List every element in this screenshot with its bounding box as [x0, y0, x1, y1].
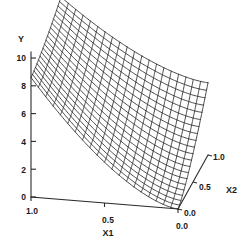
- x1-tick-label-0: 0.0: [176, 221, 188, 231]
- y-tick-label-10: 10: [17, 53, 27, 63]
- x2-tick-label-0: 0.0: [184, 208, 196, 218]
- y-tick-label-0: 0: [21, 192, 26, 202]
- y-tick-label-4: 4: [21, 137, 26, 147]
- plot-canvas: Y 10 8 6 4 2 0 1.0 0.5 0.0 X1 0.0 0.5 1.…: [0, 0, 252, 248]
- x2-axis-title: X2: [226, 185, 237, 195]
- x2-tick-mark: [178, 209, 182, 210]
- x2-tick-label-05: 0.5: [199, 182, 211, 192]
- surface-plot-figure: Y 10 8 6 4 2 0 1.0 0.5 0.0 X1 0.0 0.5 1.…: [0, 0, 252, 248]
- y-tick-label-2: 2: [21, 165, 26, 175]
- y-axis-title: Y: [18, 34, 24, 44]
- x2-tick-label-1: 1.0: [213, 152, 225, 162]
- y-tick-label-8: 8: [21, 81, 26, 91]
- y-tick-label-6: 6: [21, 109, 26, 119]
- x1-axis-title: X1: [102, 228, 113, 238]
- x2-tick-mark: [208, 155, 212, 156]
- surface-mesh: [31, 0, 208, 209]
- x1-tick-label-1: 1.0: [26, 206, 38, 216]
- x1-tick-label-05: 0.5: [102, 215, 114, 225]
- x2-tick-mark: [193, 182, 197, 183]
